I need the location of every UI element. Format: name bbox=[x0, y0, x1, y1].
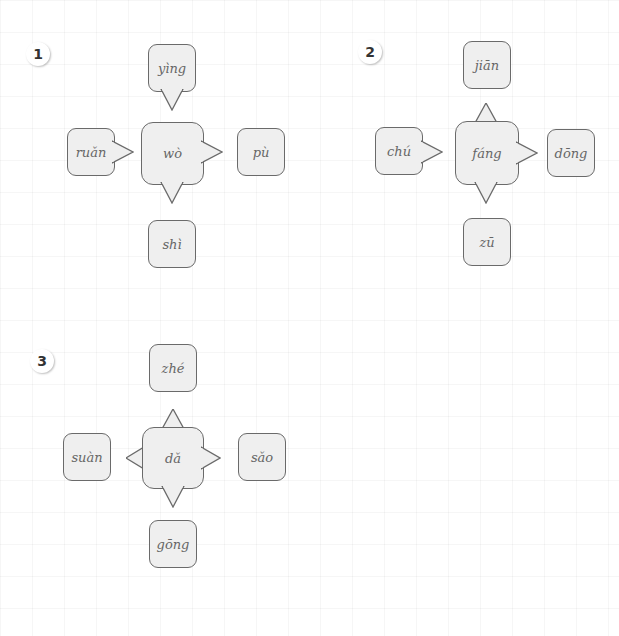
left-syllable: chú bbox=[387, 144, 411, 159]
left-syllable-box: suàn bbox=[63, 433, 111, 481]
center-syllable: dǎ bbox=[165, 451, 181, 466]
top-syllable-box: jiān bbox=[463, 41, 511, 89]
speech-tail-down-icon bbox=[160, 89, 184, 111]
top-syllable: yìng bbox=[158, 61, 186, 76]
right-syllable: pù bbox=[253, 145, 270, 160]
right-syllable-box: pù bbox=[237, 128, 285, 176]
center-syllable: fáng bbox=[472, 146, 501, 161]
speech-tail-right-icon bbox=[201, 140, 223, 164]
speech-tail-down-icon bbox=[474, 182, 498, 204]
center-syllable-box: wò bbox=[141, 122, 204, 185]
top-syllable-box: zhé bbox=[149, 344, 197, 392]
exercise-number-badge: 2 bbox=[358, 40, 382, 64]
speech-tail-up-icon bbox=[161, 409, 185, 429]
left-syllable-box: chú bbox=[375, 127, 423, 175]
right-syllable: dōng bbox=[555, 146, 588, 161]
top-syllable-box: yìng bbox=[148, 44, 196, 92]
bottom-syllable: gōng bbox=[157, 537, 190, 552]
bottom-syllable: shì bbox=[162, 237, 181, 252]
right-syllable-box: sǎo bbox=[238, 433, 286, 481]
left-syllable: suàn bbox=[71, 450, 102, 465]
bottom-syllable: zū bbox=[479, 235, 494, 250]
top-syllable: zhé bbox=[162, 361, 185, 376]
right-syllable-box: dōng bbox=[547, 129, 595, 177]
speech-tail-right-icon bbox=[516, 141, 538, 165]
bottom-syllable-box: shì bbox=[148, 220, 196, 268]
speech-tail-down-icon bbox=[161, 486, 185, 508]
speech-tail-right-icon bbox=[201, 446, 221, 470]
bottom-syllable-box: zū bbox=[463, 218, 511, 266]
exercise-number-badge: 3 bbox=[30, 349, 54, 373]
speech-tail-up-icon bbox=[474, 103, 498, 123]
top-syllable: jiān bbox=[475, 58, 499, 73]
left-syllable-box: ruǎn bbox=[67, 128, 115, 176]
right-syllable: sǎo bbox=[251, 450, 273, 465]
speech-tail-down-icon bbox=[160, 182, 184, 204]
center-syllable-box: fáng bbox=[455, 121, 519, 185]
bottom-syllable-box: gōng bbox=[149, 520, 197, 568]
left-syllable: ruǎn bbox=[76, 145, 107, 160]
center-syllable: wò bbox=[163, 146, 182, 161]
speech-tail-right-icon bbox=[421, 140, 443, 164]
speech-tail-right-icon bbox=[112, 140, 134, 164]
center-syllable-box: dǎ bbox=[142, 427, 204, 489]
exercise-number-badge: 1 bbox=[26, 42, 50, 66]
